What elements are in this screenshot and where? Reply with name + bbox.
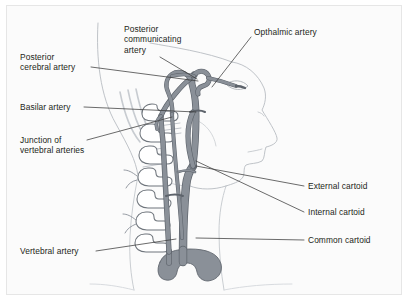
diagram-canvas: Posterior cerebral artery Basilar artery… [0,0,409,302]
artery-network [156,71,245,281]
label-opthalmic-artery: Opthalmic artery [254,27,317,37]
leader-opthalmic [212,37,251,87]
label-vertebral-artery: Vertebral artery [20,246,79,256]
label-common-cartoid: Common cartoid [308,235,371,245]
leader-internal-cartoid [196,161,304,212]
label-internal-cartoid: Internal cartoid [308,207,365,217]
label-posterior-communicating-artery: Posterior communicating artery [124,24,181,55]
label-junction-of-vertebral-arteries: Junction of vertebral arteries [20,135,84,156]
leader-common-cartoid [196,238,304,240]
label-posterior-cerebral-artery: Posterior cerebral artery [20,52,75,73]
label-external-cartoid: External cartoid [308,181,368,191]
label-basilar-artery: Basilar artery [20,102,71,112]
vertebral-process-marks [123,170,137,233]
